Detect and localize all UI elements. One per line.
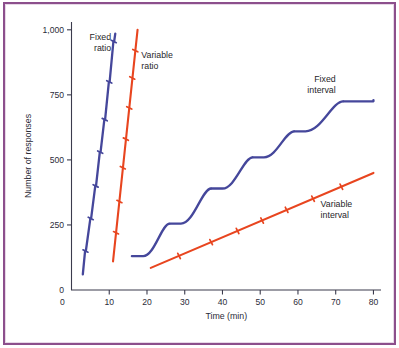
x-tick-label: 60 [293, 297, 303, 307]
reinforcement-mark [98, 151, 103, 153]
axis-spines [72, 22, 382, 290]
series-label-variable-ratio: ratio [141, 61, 158, 71]
reinforcement-mark [117, 200, 122, 202]
series-label-fixed-ratio: Fixed [90, 32, 112, 42]
reinforcement-mark [285, 207, 288, 212]
reinforcement-mark [261, 218, 264, 223]
reinforcement-mark [130, 77, 135, 79]
reinforcement-mark [312, 196, 315, 201]
figure-container: 02505007501,00001020304050607080Time (mi… [0, 0, 399, 348]
x-tick-label: 20 [142, 297, 152, 307]
x-tick-label: 0 [60, 297, 65, 307]
reinforcement-mark [88, 217, 93, 219]
series-label-fixed-ratio: ratio [94, 43, 111, 53]
y-tick-label: 750 [50, 90, 65, 100]
series-label-variable-interval: interval [321, 210, 349, 220]
reinforcement-mark [123, 138, 128, 140]
y-tick-label: 500 [50, 155, 65, 165]
reinforcement-mark [127, 107, 132, 109]
series-line-variable-ratio [113, 30, 138, 262]
series-label-variable-interval: Variable [321, 199, 353, 209]
reinforcement-mark [120, 167, 125, 169]
x-tick-label: 70 [331, 297, 341, 307]
reinforcement-mark [210, 240, 213, 245]
reinforcement-mark [114, 232, 119, 234]
reinforcement-mark [236, 228, 239, 233]
x-tick-label: 80 [369, 297, 379, 307]
y-axis-title: Number of responses [23, 113, 33, 198]
chart-plot: 02505007501,00001020304050607080Time (mi… [0, 0, 399, 348]
series-line-fixed-ratio [83, 34, 115, 275]
series-line-fixed-interval [132, 100, 374, 256]
reinforcement-mark [83, 250, 88, 252]
y-tick-label: 250 [50, 220, 65, 230]
x-tick-label: 30 [180, 297, 190, 307]
y-tick-label: 0 [59, 285, 64, 295]
series-label-fixed-interval: interval [307, 85, 335, 95]
reinforcement-mark [93, 185, 98, 187]
y-tick-label: 1,000 [42, 25, 64, 35]
x-tick-label: 10 [104, 297, 114, 307]
series-label-fixed-interval: Fixed [314, 74, 336, 84]
series-label-variable-ratio: Variable [141, 50, 173, 60]
x-axis-title: Time (min) [205, 311, 247, 321]
reinforcement-mark [133, 49, 138, 51]
reinforcement-mark [178, 253, 181, 258]
x-tick-label: 50 [255, 297, 265, 307]
reinforcement-mark [340, 184, 343, 189]
reinforcement-mark [107, 81, 112, 83]
reinforcement-mark [111, 40, 116, 42]
x-tick-label: 40 [218, 297, 228, 307]
reinforcement-mark [102, 118, 107, 120]
